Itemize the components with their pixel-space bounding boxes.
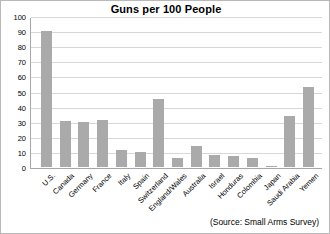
- y-axis-tick-label: 60: [18, 75, 26, 83]
- bar-series: [32, 18, 322, 167]
- bar: [135, 152, 146, 167]
- bar-slot: [206, 18, 225, 167]
- bar: [266, 166, 277, 167]
- bar: [209, 155, 220, 167]
- y-axis-tick-label: 30: [18, 120, 26, 128]
- y-axis-tick-label: 10: [18, 150, 26, 158]
- y-axis: 0102030405060708090100: [1, 18, 30, 169]
- bar: [41, 31, 52, 167]
- bar: [228, 156, 239, 167]
- chart-figure: Guns per 100 People 01020304050607080901…: [0, 0, 330, 234]
- chart-title: Guns per 100 People: [1, 3, 330, 15]
- bar-slot: [56, 18, 75, 167]
- y-axis-tick-label: 40: [18, 105, 26, 113]
- y-axis-tick-label: 50: [18, 90, 26, 98]
- bar: [284, 116, 295, 167]
- bar: [97, 120, 108, 167]
- bar: [60, 121, 71, 167]
- y-axis-tick-label: 0: [22, 165, 26, 173]
- bar-slot: [262, 18, 281, 167]
- bar-slot: [37, 18, 56, 167]
- bar-slot: [131, 18, 150, 167]
- y-axis-tick-label: 70: [18, 60, 26, 68]
- bar-slot: [149, 18, 168, 167]
- bar-slot: [93, 18, 112, 167]
- bar-slot: [168, 18, 187, 167]
- plot-area: [30, 18, 322, 169]
- bar-slot: [187, 18, 206, 167]
- bar: [153, 99, 164, 167]
- bar-slot: [74, 18, 93, 167]
- bar: [303, 87, 314, 167]
- x-axis: U.S.CanadaGermanyFranceItalySpainSwitzer…: [31, 169, 322, 219]
- bar: [116, 150, 127, 167]
- bar: [247, 158, 258, 167]
- bar-slot: [224, 18, 243, 167]
- y-axis-tick-label: 20: [18, 135, 26, 143]
- y-axis-tick-label: 90: [18, 29, 26, 37]
- source-note: (Source: Small Arms Survey): [210, 217, 319, 227]
- y-axis-tick-label: 100: [13, 14, 26, 22]
- bar-slot: [112, 18, 131, 167]
- bar-slot: [243, 18, 262, 167]
- bar-slot: [299, 18, 318, 167]
- bar: [172, 158, 183, 167]
- bar-slot: [281, 18, 300, 167]
- y-axis-tick-label: 80: [18, 44, 26, 52]
- bar: [78, 122, 89, 167]
- bar: [191, 146, 202, 167]
